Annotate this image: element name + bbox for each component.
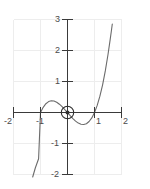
plot-area <box>0 0 150 189</box>
x-tick-label--2: -2 <box>4 117 12 126</box>
curve-cubic <box>33 24 113 177</box>
cubic-function-chart: -2 -1 1 2 3 2 1 -1 -2 <box>0 0 150 189</box>
axes <box>13 19 122 175</box>
x-tick-label-2: 2 <box>123 117 128 126</box>
y-tick-label-3: 3 <box>55 15 60 24</box>
y-tick-label--2: -2 <box>51 170 59 179</box>
y-tick-label-1: 1 <box>55 77 60 86</box>
x-tick-label--1: -1 <box>36 117 44 126</box>
y-tick-label-2: 2 <box>55 46 60 55</box>
x-tick-label-1: 1 <box>96 117 101 126</box>
root-center-dot <box>66 111 70 115</box>
y-tick-label--1: -1 <box>51 139 59 148</box>
